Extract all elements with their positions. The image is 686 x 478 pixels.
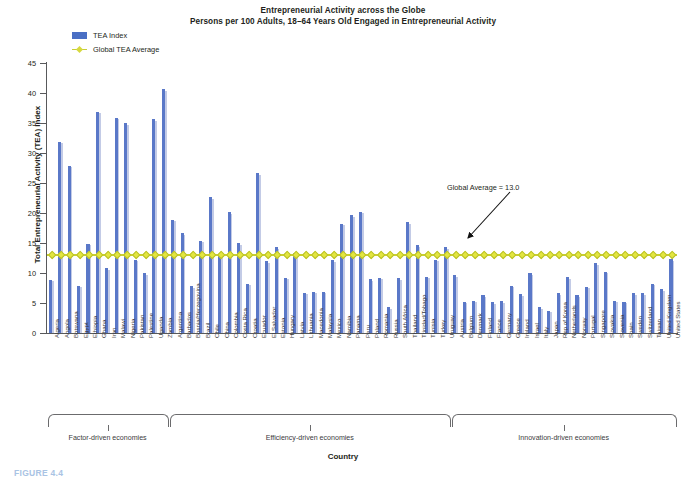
y-tick-40 — [40, 93, 46, 94]
category-label: Zambia — [167, 318, 173, 338]
y-tick-label-5: 5 — [10, 299, 36, 308]
category-label: Singapore — [600, 310, 606, 338]
category-label: Japan — [553, 321, 559, 338]
average-marker — [423, 251, 432, 260]
average-marker — [659, 251, 668, 260]
category-label: Egypt — [83, 322, 89, 338]
category-label: Netherlands — [571, 305, 577, 338]
economy-group-brackets: Factor-driven economiesEfficiency-driven… — [0, 414, 686, 454]
chart-legend: TEA Index Global TEA Average — [72, 29, 159, 57]
legend-label-global-average: Global TEA Average — [93, 45, 159, 54]
bar-argentina — [171, 220, 174, 333]
category-label: Palestine — [148, 313, 154, 338]
category-label: Hungary — [289, 315, 295, 338]
chart-title-block: Entrepreneurial Activity across the Glob… — [0, 5, 686, 27]
category-label: Lithuania — [308, 313, 314, 338]
category-label: United States — [675, 301, 681, 338]
average-marker — [386, 251, 395, 260]
average-marker — [508, 251, 517, 260]
bar-china — [218, 256, 221, 333]
average-marker — [527, 251, 536, 260]
category-label: Namibia — [346, 316, 352, 338]
figure-chart: Entrepreneurial Activity across the Glob… — [0, 0, 686, 478]
average-marker — [376, 251, 385, 260]
category-label: Denmark — [477, 313, 483, 338]
y-tick-label-40: 40 — [10, 89, 36, 98]
category-label: Angola — [64, 319, 70, 338]
y-tick-label-15: 15 — [10, 239, 36, 248]
category-label: Norway — [581, 317, 587, 338]
category-label: Finland — [487, 318, 493, 338]
average-marker — [612, 251, 621, 260]
y-tick-10 — [40, 273, 46, 274]
y-tick-label-30: 30 — [10, 149, 36, 158]
y-tick-label-20: 20 — [10, 209, 36, 218]
average-marker — [311, 251, 320, 260]
category-label: Russia — [393, 319, 399, 338]
y-tick-label-45: 45 — [10, 59, 36, 68]
category-label: Spain — [628, 322, 634, 338]
average-marker — [461, 251, 470, 260]
category-label: Latvia — [299, 322, 305, 338]
category-label: Slovakia — [609, 315, 615, 338]
category-label: Panama — [355, 315, 361, 338]
category-label: Taiwan — [656, 319, 662, 338]
category-label: Brazil — [205, 323, 211, 338]
average-marker — [245, 251, 254, 260]
category-label: Algeria — [54, 319, 60, 338]
average-marker — [480, 251, 489, 260]
bar-zambia — [162, 89, 165, 333]
average-marker — [649, 251, 658, 260]
category-label: Portugal — [590, 315, 596, 338]
y-tick-0 — [40, 333, 46, 334]
average-marker — [470, 251, 479, 260]
category-label: Argentina — [177, 312, 183, 338]
bar-angola — [58, 142, 61, 333]
category-label: Poland — [374, 319, 380, 338]
y-tick-25 — [40, 183, 46, 184]
category-label: Ecuador — [261, 315, 267, 338]
average-marker — [536, 251, 545, 260]
average-marker — [640, 251, 649, 260]
y-tick-30 — [40, 153, 46, 154]
bar-uganda — [152, 119, 155, 333]
average-marker — [621, 251, 630, 260]
average-marker — [264, 251, 273, 260]
y-tick-label-25: 25 — [10, 179, 36, 188]
group-bracket — [48, 414, 169, 427]
bar-swatch-icon — [72, 32, 87, 39]
average-marker — [104, 251, 113, 260]
average-marker — [489, 251, 498, 260]
category-label: Chile — [214, 324, 220, 338]
average-marker — [395, 251, 404, 260]
group-bracket-nub — [108, 425, 109, 431]
category-label: South Africa — [402, 305, 408, 338]
x-axis-category-labels: AlgeriaAngolaBotswanaEgyptEthiopiaGhanaI… — [47, 336, 682, 408]
category-label: Trinidad/Tobago — [421, 295, 427, 338]
category-label: Nigeria — [130, 319, 136, 338]
category-label: Italy — [543, 327, 549, 338]
category-label: Iran — [111, 327, 117, 338]
category-label: Switzerland — [647, 307, 653, 339]
y-tick-35 — [40, 123, 46, 124]
group-bracket — [452, 414, 677, 427]
average-marker — [301, 251, 310, 260]
average-marker — [593, 251, 602, 260]
y-tick-5 — [40, 303, 46, 304]
category-label: Bosnia/Herzegovina — [195, 283, 201, 338]
group-label: Factor-driven economies — [48, 434, 167, 442]
legend-item-global-average: Global TEA Average — [72, 43, 159, 55]
group-bracket-nub — [564, 425, 565, 431]
average-marker — [132, 251, 141, 260]
average-marker — [555, 251, 564, 260]
category-label: France — [496, 319, 502, 338]
figure-caption: FIGURE 4.4 — [14, 468, 63, 478]
category-label: China — [224, 322, 230, 338]
category-label: Colombia — [233, 312, 239, 338]
group-label: Efficiency-driven economies — [170, 434, 449, 442]
category-label: Turkey — [440, 320, 446, 338]
average-marker — [76, 251, 85, 260]
average-marker — [546, 251, 555, 260]
category-label: Rep of Korea — [562, 302, 568, 338]
average-marker — [565, 251, 574, 260]
